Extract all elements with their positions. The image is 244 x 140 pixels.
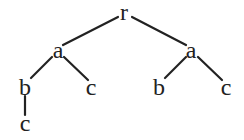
edge-r-to-left-a [63, 17, 118, 45]
edge-left-a-to-b [31, 57, 52, 78]
tree-nodes: r a a b c b c c [19, 0, 231, 136]
node-bottom-c: c [20, 110, 31, 136]
node-right-c: c [221, 74, 232, 100]
node-left-a: a [53, 37, 64, 63]
node-right-b: b [153, 74, 165, 100]
tree-edges [25, 17, 222, 115]
edge-left-a-to-c [64, 57, 88, 80]
tree-svg: r a a b c b c c [0, 0, 244, 140]
node-left-c: c [86, 74, 97, 100]
tree-diagram: r a a b c b c c [0, 0, 244, 140]
node-right-a: a [186, 37, 197, 63]
edge-right-a-to-b [165, 57, 186, 78]
node-root-r: r [120, 0, 128, 25]
node-left-b: b [19, 74, 31, 100]
edge-right-a-to-c [198, 57, 222, 80]
edge-r-to-right-a [132, 17, 186, 45]
